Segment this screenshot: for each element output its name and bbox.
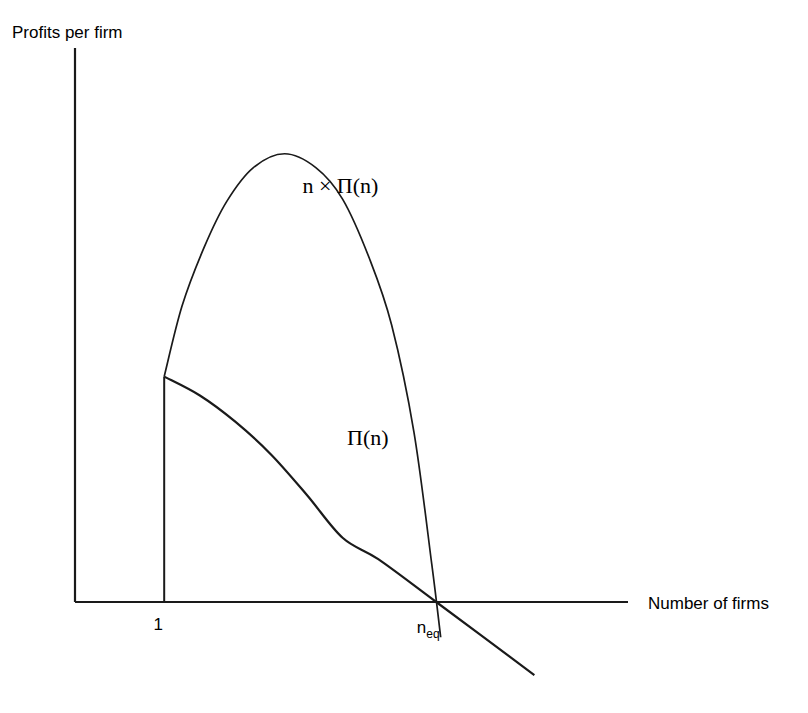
curve-n-times-pi-of-n	[164, 154, 441, 637]
x-tick-label-n-eq-base: n	[417, 618, 426, 637]
x-tick-label-n-eq-subscript: eq	[426, 627, 439, 641]
x-axis-label: Number of firms	[648, 594, 769, 613]
y-axis-label: Profits per firm	[12, 23, 123, 42]
x-tick-label-n-eq: neq	[417, 618, 440, 641]
profits-per-firm-chart: Profits per firm Number of firms 1 neq n…	[0, 0, 808, 713]
chart-page: Profits per firm Number of firms 1 neq n…	[0, 0, 808, 713]
annotation-n-times-pi: n × Π(n)	[302, 173, 378, 198]
curve-pi-of-n	[164, 377, 534, 675]
svg-text:neq: neq	[417, 618, 440, 641]
x-tick-label-1: 1	[153, 615, 162, 634]
annotation-pi: Π(n)	[347, 425, 389, 450]
